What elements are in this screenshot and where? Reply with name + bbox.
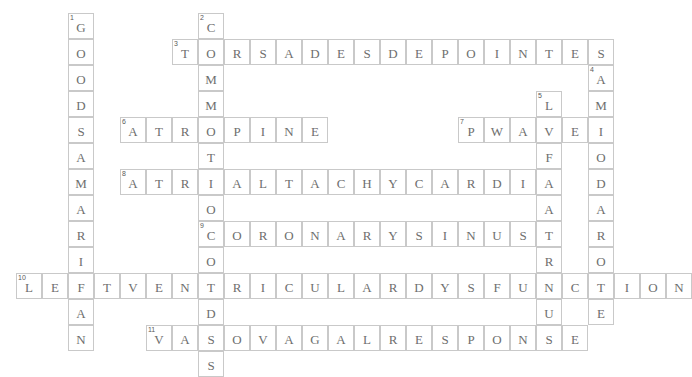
crossword-cell[interactable]: E bbox=[406, 39, 432, 65]
crossword-cell[interactable]: M bbox=[198, 65, 224, 91]
crossword-cell[interactable]: T bbox=[536, 39, 562, 65]
crossword-cell[interactable]: F bbox=[68, 273, 94, 299]
crossword-cell[interactable]: A bbox=[536, 169, 562, 195]
crossword-cell[interactable]: I bbox=[588, 117, 614, 143]
crossword-cell[interactable]: 1G bbox=[68, 13, 94, 39]
crossword-cell[interactable]: O bbox=[224, 221, 250, 247]
crossword-cell[interactable]: A bbox=[68, 143, 94, 169]
crossword-cell[interactable]: A bbox=[276, 325, 302, 351]
crossword-cell[interactable]: R bbox=[250, 221, 276, 247]
crossword-cell[interactable]: E bbox=[42, 273, 68, 299]
crossword-cell[interactable]: E bbox=[302, 117, 328, 143]
crossword-cell[interactable]: A bbox=[224, 169, 250, 195]
crossword-cell[interactable]: I bbox=[510, 169, 536, 195]
crossword-cell[interactable]: D bbox=[198, 299, 224, 325]
crossword-cell[interactable]: D bbox=[588, 169, 614, 195]
crossword-cell[interactable]: U bbox=[484, 221, 510, 247]
crossword-cell[interactable]: O bbox=[588, 143, 614, 169]
crossword-cell[interactable]: P bbox=[432, 39, 458, 65]
crossword-cell[interactable]: I bbox=[68, 247, 94, 273]
crossword-cell[interactable]: A bbox=[588, 195, 614, 221]
crossword-cell[interactable]: S bbox=[458, 273, 484, 299]
crossword-cell[interactable]: L bbox=[328, 273, 354, 299]
crossword-cell[interactable]: F bbox=[484, 273, 510, 299]
crossword-cell[interactable]: 2C bbox=[198, 13, 224, 39]
crossword-cell[interactable]: A bbox=[276, 39, 302, 65]
crossword-cell[interactable]: R bbox=[172, 117, 198, 143]
crossword-cell[interactable]: S bbox=[588, 39, 614, 65]
crossword-cell[interactable]: T bbox=[94, 273, 120, 299]
crossword-cell[interactable]: O bbox=[224, 325, 250, 351]
crossword-cell[interactable]: S bbox=[354, 39, 380, 65]
crossword-cell[interactable]: M bbox=[198, 91, 224, 117]
crossword-cell[interactable]: I bbox=[198, 169, 224, 195]
crossword-cell[interactable]: A bbox=[68, 299, 94, 325]
crossword-cell[interactable]: T bbox=[536, 221, 562, 247]
crossword-cell[interactable]: 5L bbox=[536, 91, 562, 117]
crossword-cell[interactable]: H bbox=[354, 169, 380, 195]
crossword-cell[interactable]: D bbox=[302, 39, 328, 65]
crossword-cell[interactable]: C bbox=[406, 169, 432, 195]
crossword-cell[interactable]: O bbox=[588, 247, 614, 273]
crossword-cell[interactable]: U bbox=[302, 273, 328, 299]
crossword-cell[interactable]: Y bbox=[380, 169, 406, 195]
crossword-cell[interactable]: D bbox=[380, 39, 406, 65]
crossword-cell[interactable]: N bbox=[458, 221, 484, 247]
crossword-cell[interactable]: D bbox=[406, 273, 432, 299]
crossword-cell[interactable]: S bbox=[510, 221, 536, 247]
crossword-cell[interactable]: S bbox=[250, 39, 276, 65]
crossword-cell[interactable]: S bbox=[536, 325, 562, 351]
crossword-cell[interactable]: S bbox=[68, 117, 94, 143]
crossword-cell[interactable]: 9C bbox=[198, 221, 224, 247]
crossword-cell[interactable]: N bbox=[510, 325, 536, 351]
crossword-cell[interactable]: W bbox=[484, 117, 510, 143]
crossword-cell[interactable]: O bbox=[276, 221, 302, 247]
crossword-cell[interactable]: R bbox=[536, 247, 562, 273]
crossword-cell[interactable]: L bbox=[354, 325, 380, 351]
crossword-cell[interactable]: S bbox=[406, 221, 432, 247]
crossword-cell[interactable]: M bbox=[588, 91, 614, 117]
crossword-cell[interactable]: I bbox=[432, 221, 458, 247]
crossword-cell[interactable]: E bbox=[328, 39, 354, 65]
crossword-cell[interactable]: P bbox=[458, 325, 484, 351]
crossword-cell[interactable]: U bbox=[510, 273, 536, 299]
crossword-cell[interactable]: O bbox=[68, 65, 94, 91]
crossword-cell[interactable]: A bbox=[328, 325, 354, 351]
crossword-cell[interactable]: O bbox=[68, 39, 94, 65]
crossword-cell[interactable]: 6A bbox=[120, 117, 146, 143]
crossword-cell[interactable]: T bbox=[198, 273, 224, 299]
crossword-cell[interactable]: V bbox=[536, 117, 562, 143]
crossword-cell[interactable]: I bbox=[250, 117, 276, 143]
crossword-cell[interactable]: 3T bbox=[172, 39, 198, 65]
crossword-cell[interactable]: R bbox=[354, 221, 380, 247]
crossword-cell[interactable]: E bbox=[588, 299, 614, 325]
crossword-cell[interactable]: M bbox=[68, 169, 94, 195]
crossword-cell[interactable]: Y bbox=[380, 221, 406, 247]
crossword-cell[interactable]: O bbox=[198, 247, 224, 273]
crossword-cell[interactable]: N bbox=[68, 325, 94, 351]
crossword-cell[interactable]: R bbox=[588, 221, 614, 247]
crossword-cell[interactable]: A bbox=[536, 195, 562, 221]
crossword-cell[interactable]: R bbox=[224, 39, 250, 65]
crossword-cell[interactable]: I bbox=[250, 273, 276, 299]
crossword-cell[interactable]: N bbox=[666, 273, 692, 299]
crossword-cell[interactable]: F bbox=[536, 143, 562, 169]
crossword-cell[interactable]: O bbox=[640, 273, 666, 299]
crossword-cell[interactable]: E bbox=[146, 273, 172, 299]
crossword-cell[interactable]: I bbox=[614, 273, 640, 299]
crossword-cell[interactable]: V bbox=[120, 273, 146, 299]
crossword-cell[interactable]: A bbox=[432, 169, 458, 195]
crossword-cell[interactable]: S bbox=[198, 325, 224, 351]
crossword-cell[interactable]: E bbox=[406, 325, 432, 351]
crossword-cell[interactable]: O bbox=[198, 39, 224, 65]
crossword-cell[interactable]: G bbox=[302, 325, 328, 351]
crossword-cell[interactable]: S bbox=[432, 325, 458, 351]
crossword-cell[interactable]: P bbox=[224, 117, 250, 143]
crossword-cell[interactable]: 11V bbox=[146, 325, 172, 351]
crossword-cell[interactable]: N bbox=[510, 39, 536, 65]
crossword-cell[interactable]: S bbox=[198, 351, 224, 377]
crossword-cell[interactable]: 8A bbox=[120, 169, 146, 195]
crossword-cell[interactable]: 4A bbox=[588, 65, 614, 91]
crossword-cell[interactable]: N bbox=[276, 117, 302, 143]
crossword-cell[interactable]: D bbox=[68, 91, 94, 117]
